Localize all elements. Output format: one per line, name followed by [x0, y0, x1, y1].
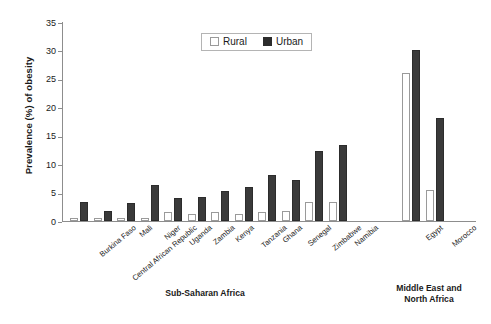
- y-tick-mark-30: [58, 51, 62, 52]
- bar-urban: [151, 185, 159, 221]
- legend-item-rural: Rural: [210, 36, 247, 47]
- bar-group: [187, 22, 211, 221]
- bar-rural: [305, 202, 313, 221]
- legend-item-urban: Urban: [263, 36, 303, 47]
- y-tick-mark-10: [58, 165, 62, 166]
- y-tick-mark-20: [58, 108, 62, 109]
- bar-rural: [258, 212, 266, 221]
- bar-urban: [198, 197, 206, 221]
- bar-urban: [245, 187, 253, 221]
- bar-rural: [402, 73, 410, 221]
- bar-urban: [436, 118, 444, 221]
- legend-label-urban: Urban: [276, 36, 303, 47]
- x-label-egypt: Egypt: [425, 224, 445, 243]
- y-tick-mark-15: [58, 137, 62, 138]
- x-axis-line: [62, 221, 476, 222]
- y-tick-label-35: 35: [26, 19, 56, 28]
- chart-legend: Rural Urban: [201, 33, 312, 51]
- y-tick-label-30: 30: [26, 47, 56, 56]
- x-label-morocco: Morocco: [450, 224, 477, 249]
- bar-group: [304, 22, 328, 221]
- bar-rural: [426, 190, 434, 221]
- plot-area: 05101520253035: [62, 22, 476, 222]
- bar-group: [210, 22, 234, 221]
- bar-urban: [268, 175, 276, 221]
- y-tick-label-20: 20: [26, 104, 56, 113]
- black-square-swatch-icon: [263, 37, 272, 46]
- bar-group: [425, 22, 449, 221]
- bar-urban: [315, 151, 323, 222]
- y-tick-mark-5: [58, 194, 62, 195]
- x-label-senegal: Senegal: [306, 224, 332, 248]
- y-tick-mark-0: [58, 222, 62, 223]
- obesity-prevalence-bar-chart: Prevalence (%) of obesity 05101520253035…: [0, 0, 491, 324]
- bar-group: [281, 22, 305, 221]
- x-axis-category-labels: Burkina FasoCentral African RepublicMali…: [62, 224, 476, 276]
- bar-urban: [80, 202, 88, 221]
- x-label-zambia: Zambia: [211, 224, 236, 246]
- group-caption-mena-line1: Middle East and: [370, 283, 488, 294]
- group-caption-mena-line2: North Africa: [370, 294, 488, 305]
- bar-series-container: [63, 22, 476, 221]
- bar-group: [328, 22, 352, 221]
- bar-urban: [412, 50, 420, 221]
- bar-rural: [188, 214, 196, 221]
- bar-urban: [104, 211, 112, 221]
- x-label-burkina-faso: Burkina Faso: [98, 224, 137, 259]
- bar-group: [93, 22, 117, 221]
- y-tick-label-10: 10: [26, 161, 56, 170]
- bar-rural: [164, 212, 172, 221]
- bar-rural: [117, 218, 125, 221]
- x-label-kenya: Kenya: [234, 224, 256, 244]
- bar-rural: [94, 218, 102, 221]
- bar-rural: [282, 211, 290, 221]
- bar-urban: [292, 180, 300, 221]
- y-tick-label-5: 5: [26, 189, 56, 198]
- bar-rural: [70, 218, 78, 221]
- bar-group: [116, 22, 140, 221]
- bar-group: [401, 22, 425, 221]
- y-tick-mark-25: [58, 80, 62, 81]
- bar-group: [69, 22, 93, 221]
- y-tick-mark-35: [58, 23, 62, 24]
- y-tick-label-0: 0: [26, 218, 56, 227]
- bar-rural: [235, 214, 243, 221]
- bar-rural: [141, 218, 149, 221]
- bar-group: [140, 22, 164, 221]
- bar-group: [163, 22, 187, 221]
- bar-urban: [221, 191, 229, 221]
- white-square-swatch-icon: [210, 37, 219, 46]
- group-caption-middle-east-north-africa: Middle East and North Africa: [370, 283, 488, 305]
- bar-rural: [211, 212, 219, 221]
- y-tick-label-15: 15: [26, 132, 56, 141]
- bar-group: [234, 22, 258, 221]
- bar-urban: [174, 198, 182, 221]
- y-tick-label-25: 25: [26, 75, 56, 84]
- legend-label-rural: Rural: [223, 36, 247, 47]
- x-label-mali: Mali: [138, 224, 154, 239]
- bar-urban: [127, 203, 135, 221]
- bar-urban: [339, 145, 347, 221]
- group-caption-sub-saharan-africa: Sub-Saharan Africa: [105, 288, 305, 299]
- bar-group: [257, 22, 281, 221]
- bar-rural: [329, 202, 337, 221]
